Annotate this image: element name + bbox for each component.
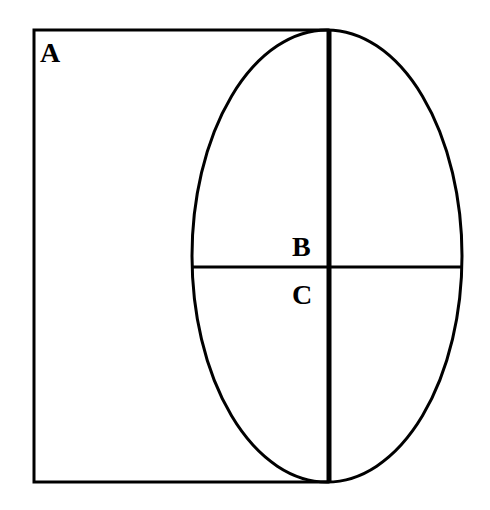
label-b: B <box>292 231 311 262</box>
label-c: C <box>292 279 312 310</box>
rectangle-a <box>34 30 328 482</box>
label-a: A <box>40 37 61 68</box>
diagram-canvas: A B C <box>0 0 490 510</box>
